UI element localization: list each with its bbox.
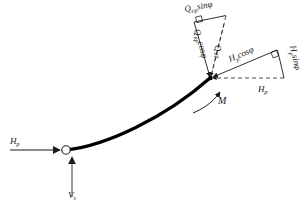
svg-text:Hpcosφ: Hpcosφ — [226, 44, 256, 65]
svg-text:Hp: Hp — [257, 84, 268, 95]
label-h-p-cos-suffix: cosφ — [236, 44, 256, 60]
svg-text:M: M — [217, 95, 227, 106]
label-h-p-sin-phi: Hpsinφ — [286, 43, 302, 71]
svg-text:Qtip: Qtip — [211, 43, 226, 59]
label-h-p-tip: Hp — [257, 84, 268, 95]
label-q-tip-sin-phi: Qtipsinφ — [183, 0, 213, 15]
label-q-tip-sin-suffix: sinφ — [196, 0, 213, 12]
label-q-tip-cos-phi: Qtipcosφ — [191, 28, 210, 60]
free-body-diagram: Qtipsinφ Qtipcosφ Qtip Hpcosφ Hpsinφ — [0, 0, 302, 207]
svg-text:Hp: Hp — [9, 136, 20, 147]
svg-text:Qtipcosφ: Qtipcosφ — [191, 28, 210, 60]
svg-text:Qtipsinφ: Qtipsinφ — [183, 0, 213, 15]
label-h-p-cos-phi: Hpcosφ — [226, 44, 256, 65]
label-moment-base: M — [217, 95, 227, 106]
label-q-tip: Qtip — [211, 43, 226, 59]
pile-curve — [66, 78, 210, 150]
label-v-s: Vs — [68, 190, 77, 201]
moment-arc-arrow — [193, 92, 220, 113]
label-h-p-head-sub: p — [16, 141, 20, 147]
pile-head-node — [62, 146, 70, 154]
label-v-s-sub: s — [74, 195, 77, 201]
diagram-canvas: Qtipsinφ Qtipcosφ Qtip Hpcosφ Hpsinφ — [0, 0, 302, 207]
svg-text:Vs: Vs — [68, 190, 77, 201]
q-tip-right-angle-mark — [196, 16, 203, 23]
label-q-tip-cos-suffix: cosφ — [196, 40, 210, 59]
label-h-p-sin-suffix: sinφ — [290, 54, 302, 71]
label-h-p-head: Hp — [9, 136, 20, 147]
svg-text:Hpsinφ: Hpsinφ — [286, 43, 302, 71]
label-q-tip-sub: tip — [213, 51, 221, 59]
label-moment: M — [217, 95, 227, 106]
label-h-p-tip-sub: p — [264, 89, 268, 95]
